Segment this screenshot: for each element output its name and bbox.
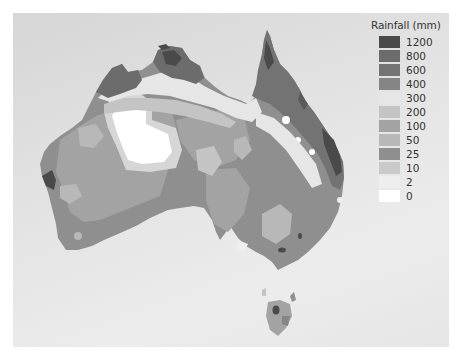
legend-item: 300: [370, 91, 449, 105]
legend-item: 1200: [370, 35, 449, 49]
legend-swatch: [379, 92, 400, 104]
legend-swatch: [379, 78, 400, 90]
legend-swatch: [379, 134, 400, 146]
legend-swatch: [379, 190, 400, 202]
legend-swatch: [379, 50, 400, 62]
legend-swatch: [379, 176, 400, 188]
legend-title: Rainfall (mm): [371, 19, 449, 31]
legend-item: 25: [370, 147, 449, 161]
legend-swatch: [379, 64, 400, 76]
legend-item: 10: [370, 161, 449, 175]
legend-swatch: [379, 148, 400, 160]
map-panel: Rainfall (mm) 1200 800 600 400 300 200 1…: [13, 13, 449, 347]
legend-swatch: [379, 162, 400, 174]
legend-item: 100: [370, 119, 449, 133]
legend-swatch: [379, 106, 400, 118]
legend-item: 2: [370, 175, 449, 189]
legend-swatch: [379, 36, 400, 48]
legend-item: 50: [370, 133, 449, 147]
legend: Rainfall (mm) 1200 800 600 400 300 200 1…: [370, 19, 449, 203]
legend-item: 200: [370, 105, 449, 119]
legend-item: 400: [370, 77, 449, 91]
legend-item: 600: [370, 63, 449, 77]
legend-item: 0: [370, 189, 449, 203]
legend-item: 800: [370, 49, 449, 63]
legend-swatch: [379, 120, 400, 132]
